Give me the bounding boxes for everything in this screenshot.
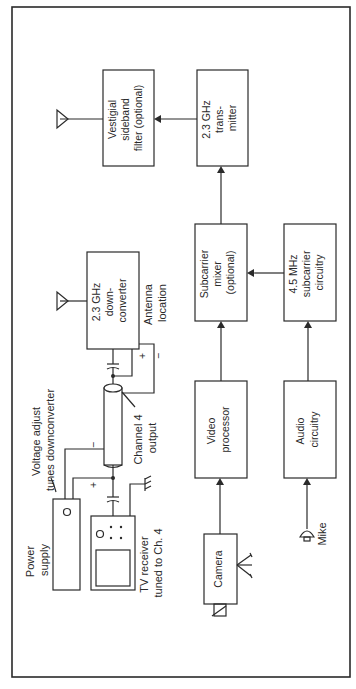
channel4-pointer bbox=[122, 392, 135, 407]
capacitor-lower-icon bbox=[107, 478, 119, 516]
subcarrier-label-line2: subcarrier bbox=[300, 250, 312, 297]
video-processor-block: Video processor bbox=[195, 381, 247, 478]
video-label-line2: processor bbox=[219, 406, 231, 453]
channel4-output-label: Channel 4 output bbox=[132, 411, 158, 464]
subcarrier-label-line1: 4.5 MHz bbox=[287, 254, 299, 293]
minus-sign-upper: − bbox=[152, 353, 164, 359]
audio-label-line1: Audio bbox=[294, 417, 306, 444]
subcarrier-label-line3: circuitry bbox=[313, 254, 325, 291]
transmitter-block: 2.3 GHz trans- mitter bbox=[197, 70, 248, 166]
camera-tripod-icon bbox=[237, 553, 252, 578]
video-to-mixer-arrow bbox=[217, 321, 225, 381]
antenna-location-label: Antenna location bbox=[142, 281, 168, 325]
audio-to-subcarrier-arrow bbox=[304, 321, 312, 381]
transmitter-label-line1: 2.3 GHz bbox=[200, 100, 212, 139]
mike-to-audio-arrow bbox=[303, 478, 311, 529]
mike-label: Mike bbox=[316, 522, 328, 545]
svg-text:2.3 GHz down- conv: 2.3 GHz down- converter bbox=[90, 278, 128, 322]
mixer-label-line3: (optional) bbox=[224, 251, 236, 295]
power-supply-label: Power supply bbox=[24, 543, 50, 577]
transmit-antenna-icon bbox=[57, 110, 103, 128]
downconverter-label-line2: down- bbox=[103, 287, 115, 316]
power-supply-icon bbox=[53, 499, 80, 590]
subcarrier-circuitry-block: 4.5 MHz subcarrier circuitry bbox=[284, 224, 336, 321]
plus-sign-lower: + bbox=[87, 482, 99, 488]
voltage-adjust-label: Voltage adjust tunes downconverter bbox=[30, 389, 56, 491]
mixer-label-line2: mixer bbox=[211, 261, 223, 287]
transmitter-label-line2: trans- bbox=[213, 106, 225, 133]
video-label-line1: Video bbox=[205, 417, 217, 444]
svg-text:4.5 MHz subcarrier: 4.5 MHz subcarrier circuitry bbox=[287, 248, 325, 298]
plus-sign-upper: + bbox=[136, 353, 148, 359]
transmitter-to-filter-arrow bbox=[154, 115, 197, 123]
subcarrier-mixer-block: Subcarrier mixer (optional) bbox=[195, 224, 247, 321]
microphone-icon bbox=[300, 529, 314, 541]
camera-to-video-arrow bbox=[216, 478, 224, 534]
camera-block: Camera bbox=[204, 534, 237, 604]
transmitter-label-line3: mitter bbox=[226, 104, 238, 131]
camera-label: Camera bbox=[212, 550, 224, 588]
downconverter-label-line3: converter bbox=[116, 278, 128, 322]
downconverter-block: 2.3 GHz down- converter bbox=[87, 252, 139, 349]
vestigial-label-line3: filter (optional) bbox=[132, 85, 144, 152]
audio-label-line2: circuitry bbox=[308, 411, 320, 448]
mixer-label-line1: Subcarrier bbox=[198, 249, 210, 298]
mixer-to-transmitter-arrow bbox=[217, 166, 225, 224]
block-diagram: Vestigial sideband filter (optional) 2.3… bbox=[0, 0, 356, 689]
capacitor-upper-icon bbox=[107, 349, 119, 388]
minus-sign-lower: − bbox=[87, 442, 99, 448]
subcarrier-to-mixer-arrow bbox=[247, 269, 284, 277]
audio-circuitry-block: Audio circuitry bbox=[284, 381, 336, 478]
ground-symbol-icon bbox=[130, 476, 151, 516]
camera-lens-icon bbox=[212, 604, 226, 616]
vestigial-label-line1: Vestigial bbox=[106, 100, 118, 139]
tv-receiver-label: TV receiver tuned to Ch. 4 bbox=[138, 528, 164, 597]
tv-receiver-icon bbox=[91, 516, 135, 590]
receive-antenna-icon bbox=[57, 292, 87, 310]
vestigial-label-line2: sideband bbox=[119, 98, 131, 141]
vestigial-sideband-filter-block: Vestigial sideband filter (optional) bbox=[103, 70, 154, 166]
downconverter-label-line1: 2.3 GHz bbox=[90, 283, 102, 322]
coax-cable-icon bbox=[104, 384, 122, 468]
